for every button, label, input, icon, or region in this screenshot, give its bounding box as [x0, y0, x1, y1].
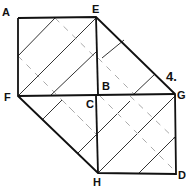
- vertex-label-g: G: [177, 89, 186, 101]
- figure-number: 4.: [166, 69, 177, 84]
- vertex-label-h: H: [93, 176, 101, 188]
- vertex-label-b: B: [102, 80, 110, 92]
- vertex-label-d: D: [178, 169, 186, 181]
- vertex-label-e: E: [92, 3, 99, 15]
- vertex-label-a: A: [2, 6, 10, 18]
- vertex-label-f: F: [4, 91, 11, 103]
- outline: [18, 17, 176, 174]
- vertex-label-c: C: [86, 98, 94, 110]
- geometry-figure: A E F B C G H D 4.: [0, 0, 186, 189]
